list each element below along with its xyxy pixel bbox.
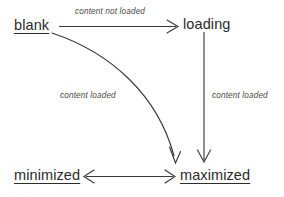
state-node-loading: loading	[183, 17, 230, 32]
edge-minimized-maximized	[84, 170, 175, 183]
edge-loading-to-maximized	[198, 32, 211, 162]
edge-blank-to-loading	[59, 20, 178, 33]
state-node-blank: blank	[14, 18, 49, 33]
arrowhead-blank-to-maximized	[170, 147, 181, 163]
state-diagram: blank loading minimized maximized conten…	[0, 0, 284, 197]
edge-label-content-not-loaded: content not loaded	[75, 8, 145, 16]
edge-label-content-loaded-curve: content loaded	[60, 92, 116, 100]
state-node-minimized: minimized	[14, 168, 80, 183]
edge-label-content-loaded-vertical: content loaded	[212, 92, 268, 100]
state-node-maximized: maximized	[180, 168, 250, 183]
